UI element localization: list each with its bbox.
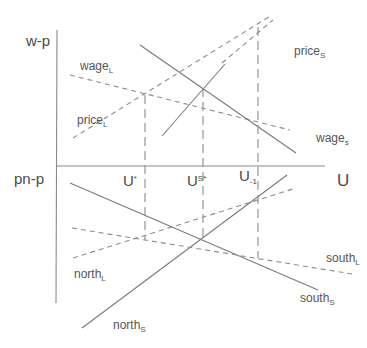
wage-s-curve: [140, 45, 296, 153]
u-star-sup: *: [134, 174, 137, 183]
price-l-sub: L: [103, 120, 107, 129]
u-star-base: U: [123, 172, 134, 189]
north-l-sub: L: [101, 274, 105, 283]
u-s-star-label: US*: [187, 173, 206, 188]
south-s-base: south: [300, 291, 329, 305]
u-star-label: U*: [123, 173, 137, 188]
north-s-base: north: [113, 318, 140, 332]
south-s-curve: [70, 183, 318, 290]
price-s-curve: [162, 64, 225, 136]
north-l-base: north: [74, 267, 101, 281]
south-l-label: southL: [326, 252, 360, 267]
south-l-base: south: [326, 251, 355, 265]
price-l-base: price: [77, 113, 103, 127]
lower-y-axis-label: pn-p: [14, 171, 44, 186]
north-s-label: northS: [113, 319, 146, 334]
price-s-base: price: [294, 44, 320, 58]
u-s-star-sup: S*: [198, 174, 206, 183]
south-s-label: southS: [300, 292, 335, 307]
south-l-curve: [72, 228, 352, 274]
upper-y-axis-label: w-p: [26, 33, 50, 48]
wage-l-base: wage: [80, 59, 109, 73]
price-s-label: priceS: [294, 45, 325, 60]
wage-s-sub: s: [345, 138, 349, 147]
u-s-star-base: U: [187, 172, 198, 189]
wage-s-base: wage: [316, 131, 345, 145]
wage-s-label: wages: [316, 132, 349, 147]
u-minus-1-base: U: [239, 167, 250, 184]
south-s-sub: S: [329, 298, 334, 307]
north-s-curve: [82, 175, 287, 328]
wage-l-sub: L: [109, 66, 113, 75]
price-l-label: priceL: [77, 114, 107, 129]
south-l-sub: L: [355, 258, 359, 267]
north-s-sub: S: [140, 325, 145, 334]
north-l-label: northL: [74, 268, 106, 283]
x-axis-label: U: [337, 172, 349, 189]
u-minus-1-sub: -1: [250, 177, 257, 186]
wage-l-label: wageL: [80, 60, 113, 75]
u-minus-1-label: U-1: [239, 168, 257, 186]
price-s-sub: S: [320, 51, 325, 60]
